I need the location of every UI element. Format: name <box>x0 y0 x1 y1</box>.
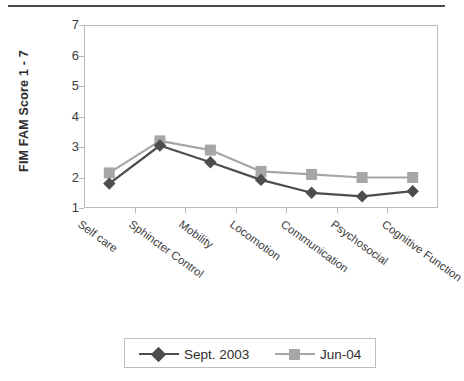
chart-legend: Sept. 2003 Jun-04 <box>124 338 376 368</box>
legend-swatch-diamond-icon <box>139 347 179 361</box>
legend-entry-jun-04: Jun-04 <box>275 345 361 363</box>
legend-swatch-square-icon <box>275 347 315 361</box>
legend-label-sept-2003: Sept. 2003 <box>179 347 249 362</box>
legend-entry-sept-2003: Sept. 2003 <box>139 345 249 363</box>
data-point-square <box>205 145 216 156</box>
data-point-square <box>357 172 368 183</box>
data-point-square <box>306 169 317 180</box>
data-point-square <box>407 172 418 183</box>
data-point-diamond <box>305 187 317 199</box>
data-point-diamond <box>407 185 419 197</box>
data-point-diamond <box>356 190 368 202</box>
legend-label-jun-04: Jun-04 <box>315 347 361 362</box>
data-point-square <box>104 167 115 178</box>
data-point-diamond <box>204 156 216 168</box>
